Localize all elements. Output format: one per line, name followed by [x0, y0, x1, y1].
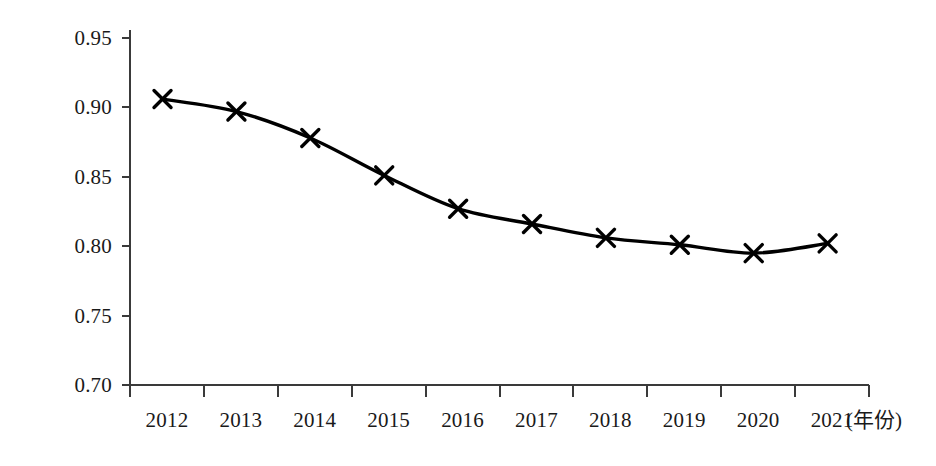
- data-point-marker: [450, 200, 467, 217]
- x-axis-tick-label: 2016: [423, 410, 503, 431]
- y-axis-tick-label: 0.85: [42, 167, 112, 188]
- y-axis-ticks: [122, 38, 130, 385]
- x-axis-tick-label: 2017: [496, 410, 576, 431]
- x-axis-tick-label: 2012: [127, 410, 207, 431]
- chart-canvas: [0, 0, 936, 466]
- x-axis-ticks: [130, 385, 869, 397]
- x-axis-tick-label: 2020: [718, 410, 798, 431]
- y-axis-tick-label: 0.80: [42, 236, 112, 257]
- y-axis-tick-label: 0.75: [42, 306, 112, 327]
- x-axis-unit-label: (年份): [846, 410, 902, 431]
- data-point-marker: [376, 167, 393, 184]
- x-axis-tick-label: 2013: [201, 410, 281, 431]
- y-axis-tick-label: 0.90: [42, 97, 112, 118]
- x-axis-tick-label: 2014: [275, 410, 355, 431]
- data-point-marker: [302, 129, 319, 146]
- x-axis-tick-label: 2019: [644, 410, 724, 431]
- data-line: [163, 99, 828, 253]
- x-axis-tick-label: 2018: [570, 410, 650, 431]
- y-axis-tick-label: 0.70: [42, 375, 112, 396]
- line-chart: 0.950.900.850.800.750.70 201220132014201…: [0, 0, 936, 466]
- x-axis-tick-label: 2015: [349, 410, 429, 431]
- y-axis-tick-label: 0.95: [42, 28, 112, 49]
